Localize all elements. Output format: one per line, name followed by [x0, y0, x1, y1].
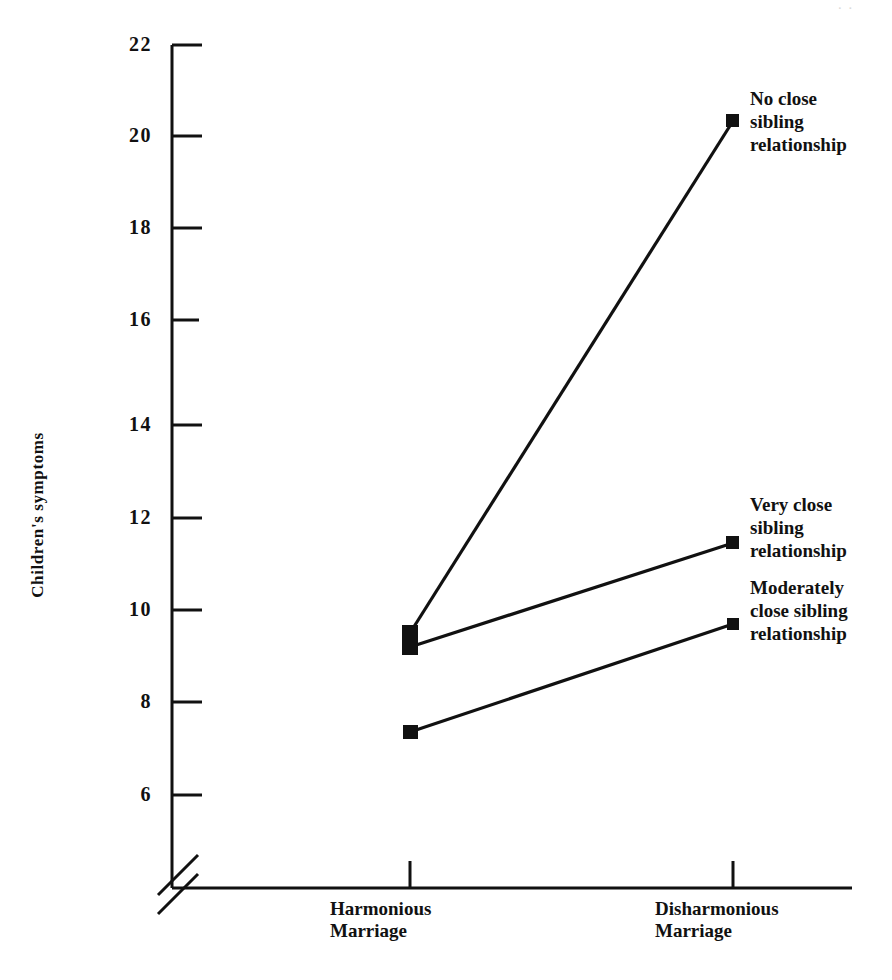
series-label-no-close: No close sibling relationship: [750, 88, 847, 156]
y-axis-title: Children's symptoms: [28, 415, 48, 615]
marker-very-close-disharmonious: [726, 536, 739, 549]
marker-moderately-close-harmonious: [403, 725, 418, 739]
y-tick-label-8: 8: [92, 691, 152, 711]
series-line-moderately-close: [410, 624, 733, 732]
series-line-no-close: [410, 121, 733, 633]
y-tick-label-18: 18: [92, 217, 152, 237]
y-axis-ticks: [172, 45, 202, 795]
series-lines: [410, 121, 733, 732]
marker-very-close-harmonious: [402, 640, 418, 655]
marker-no-close-harmonious: [402, 625, 418, 640]
marker-no-close-disharmonious: [726, 114, 739, 127]
marker-moderately-close-disharmonious: [727, 618, 739, 630]
x-axis-ticks: [410, 861, 733, 888]
y-axis-break-icon: [158, 855, 198, 914]
y-tick-label-16: 16: [92, 309, 152, 329]
x-tick-label-harmonious: Harmonious Marriage: [330, 898, 431, 943]
y-tick-label-22: 22: [92, 34, 152, 54]
series-markers: [402, 114, 739, 739]
figure-container: · ·: [0, 0, 892, 980]
series-label-very-close: Very close sibling relationship: [750, 494, 847, 562]
x-tick-label-disharmonious: Disharmonious Marriage: [655, 898, 779, 943]
y-tick-label-20: 20: [92, 125, 152, 145]
y-tick-label-14: 14: [92, 414, 152, 434]
series-label-moderately-close: Moderately close sibling relationship: [750, 577, 848, 645]
y-tick-label-12: 12: [92, 507, 152, 527]
y-tick-label-6: 6: [92, 784, 152, 804]
y-tick-label-10: 10: [92, 599, 152, 619]
